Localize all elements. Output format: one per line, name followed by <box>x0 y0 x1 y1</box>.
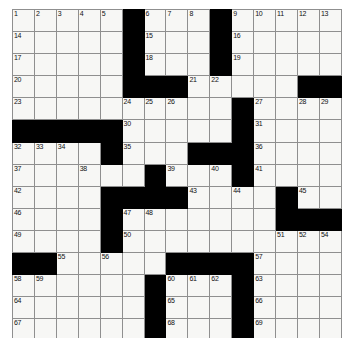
crossword-cell[interactable] <box>166 120 188 142</box>
crossword-cell[interactable] <box>78 98 100 120</box>
crossword-cell[interactable] <box>210 319 232 338</box>
crossword-cell[interactable]: 20 <box>13 76 35 98</box>
crossword-cell[interactable] <box>188 208 210 230</box>
crossword-cell[interactable] <box>34 32 56 54</box>
crossword-cell[interactable] <box>188 54 210 76</box>
crossword-cell[interactable]: 68 <box>166 319 188 338</box>
crossword-cell[interactable] <box>319 186 341 208</box>
crossword-cell[interactable] <box>100 98 122 120</box>
crossword-cell[interactable]: 40 <box>210 164 232 186</box>
crossword-cell[interactable] <box>34 319 56 338</box>
crossword-cell[interactable]: 69 <box>254 319 276 338</box>
crossword-cell[interactable] <box>210 297 232 319</box>
crossword-cell[interactable]: 13 <box>319 10 341 32</box>
crossword-cell[interactable] <box>78 186 100 208</box>
crossword-cell[interactable] <box>56 76 78 98</box>
crossword-cell[interactable]: 2 <box>34 10 56 32</box>
crossword-cell[interactable] <box>100 319 122 338</box>
crossword-cell[interactable] <box>254 208 276 230</box>
crossword-cell[interactable]: 9 <box>232 10 254 32</box>
crossword-cell[interactable]: 64 <box>13 297 35 319</box>
crossword-cell[interactable] <box>254 76 276 98</box>
crossword-cell[interactable] <box>297 32 319 54</box>
crossword-cell[interactable] <box>34 297 56 319</box>
crossword-cell[interactable] <box>100 54 122 76</box>
crossword-cell[interactable]: 19 <box>232 54 254 76</box>
crossword-cell[interactable] <box>210 120 232 142</box>
crossword-cell[interactable] <box>297 319 319 338</box>
crossword-cell[interactable] <box>276 120 298 142</box>
crossword-cell[interactable] <box>56 32 78 54</box>
crossword-cell[interactable]: 44 <box>232 186 254 208</box>
crossword-cell[interactable]: 8 <box>188 10 210 32</box>
crossword-cell[interactable]: 63 <box>254 275 276 297</box>
crossword-cell[interactable] <box>144 120 166 142</box>
crossword-cell[interactable] <box>276 275 298 297</box>
crossword-cell[interactable] <box>319 275 341 297</box>
crossword-cell[interactable]: 17 <box>13 54 35 76</box>
crossword-cell[interactable] <box>122 164 144 186</box>
crossword-cell[interactable] <box>166 208 188 230</box>
crossword-cell[interactable] <box>34 208 56 230</box>
crossword-cell[interactable]: 4 <box>78 10 100 32</box>
crossword-cell[interactable]: 3 <box>56 10 78 32</box>
crossword-cell[interactable] <box>78 297 100 319</box>
crossword-cell[interactable] <box>56 319 78 338</box>
crossword-cell[interactable] <box>34 98 56 120</box>
crossword-cell[interactable] <box>210 98 232 120</box>
crossword-cell[interactable]: 32 <box>13 142 35 164</box>
crossword-cell[interactable] <box>319 120 341 142</box>
crossword-cell[interactable] <box>254 54 276 76</box>
crossword-cell[interactable]: 60 <box>166 275 188 297</box>
crossword-cell[interactable]: 11 <box>276 10 298 32</box>
crossword-cell[interactable] <box>319 142 341 164</box>
crossword-cell[interactable]: 54 <box>319 230 341 252</box>
crossword-cell[interactable]: 48 <box>144 208 166 230</box>
crossword-cell[interactable] <box>78 230 100 252</box>
crossword-cell[interactable] <box>144 142 166 164</box>
crossword-cell[interactable] <box>78 142 100 164</box>
crossword-cell[interactable] <box>319 319 341 338</box>
crossword-cell[interactable]: 46 <box>13 208 35 230</box>
crossword-cell[interactable]: 34 <box>56 142 78 164</box>
crossword-cell[interactable] <box>34 230 56 252</box>
crossword-cell[interactable] <box>188 297 210 319</box>
crossword-cell[interactable] <box>297 120 319 142</box>
crossword-cell[interactable] <box>297 54 319 76</box>
crossword-cell[interactable]: 27 <box>254 98 276 120</box>
crossword-cell[interactable]: 15 <box>144 32 166 54</box>
crossword-cell[interactable]: 16 <box>232 32 254 54</box>
crossword-cell[interactable] <box>166 230 188 252</box>
crossword-cell[interactable]: 39 <box>166 164 188 186</box>
crossword-cell[interactable] <box>188 230 210 252</box>
crossword-cell[interactable] <box>297 142 319 164</box>
crossword-cell[interactable]: 24 <box>122 98 144 120</box>
crossword-cell[interactable] <box>56 275 78 297</box>
crossword-cell[interactable]: 59 <box>34 275 56 297</box>
crossword-cell[interactable]: 45 <box>297 186 319 208</box>
crossword-cell[interactable] <box>78 275 100 297</box>
crossword-cell[interactable] <box>56 208 78 230</box>
crossword-cell[interactable] <box>254 32 276 54</box>
crossword-cell[interactable] <box>78 319 100 338</box>
crossword-cell[interactable] <box>232 76 254 98</box>
crossword-cell[interactable]: 14 <box>13 32 35 54</box>
crossword-cell[interactable] <box>100 164 122 186</box>
crossword-cell[interactable] <box>188 319 210 338</box>
crossword-cell[interactable]: 43 <box>188 186 210 208</box>
crossword-cell[interactable] <box>232 230 254 252</box>
crossword-cell[interactable]: 49 <box>13 230 35 252</box>
crossword-cell[interactable]: 55 <box>56 253 78 275</box>
crossword-cell[interactable] <box>254 186 276 208</box>
crossword-cell[interactable] <box>297 164 319 186</box>
crossword-cell[interactable]: 37 <box>13 164 35 186</box>
crossword-cell[interactable] <box>122 275 144 297</box>
crossword-cell[interactable] <box>100 32 122 54</box>
crossword-cell[interactable]: 26 <box>166 98 188 120</box>
crossword-cell[interactable] <box>56 297 78 319</box>
crossword-cell[interactable]: 58 <box>13 275 35 297</box>
crossword-cell[interactable]: 36 <box>254 142 276 164</box>
crossword-cell[interactable]: 57 <box>254 253 276 275</box>
crossword-cell[interactable] <box>188 32 210 54</box>
crossword-cell[interactable]: 56 <box>100 253 122 275</box>
